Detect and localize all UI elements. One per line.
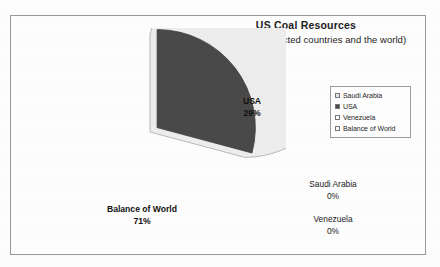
legend-swatch-icon [335, 126, 340, 131]
pie-label-balance-of-world: Balance of World 71% [78, 204, 206, 227]
zero-callout-venezuela: Venezuela 0% [287, 213, 379, 237]
pie-label-usa-name: USA [222, 96, 282, 108]
chart-page: US Coal Resources (compared to selected … [0, 0, 440, 267]
legend-item-saudi-arabia[interactable]: Saudi Arabia [335, 90, 406, 101]
pie-chart: USA 29% Balance of World 71% [26, 28, 286, 240]
pie-label-usa-percent: 29% [222, 108, 282, 120]
legend-swatch-icon [335, 104, 340, 109]
zero-callout-percent: 0% [287, 225, 379, 237]
pie-label-balance-percent: 71% [78, 216, 206, 228]
legend-label: USA [343, 103, 357, 110]
zero-callout-name: Saudi Arabia [287, 178, 379, 190]
legend-swatch-icon [335, 93, 340, 98]
legend-item-venezuela[interactable]: Venezuela [335, 112, 406, 123]
zero-callout-name: Venezuela [287, 213, 379, 225]
chart-legend[interactable]: Saudi Arabia USA Venezuela Balance of Wo… [330, 86, 411, 138]
pie-label-balance-name: Balance of World [78, 204, 206, 216]
legend-item-usa[interactable]: USA [335, 101, 406, 112]
legend-label: Venezuela [343, 114, 375, 121]
pie-label-usa: USA 29% [222, 96, 282, 119]
legend-item-balance-of-world[interactable]: Balance of World [335, 123, 406, 134]
zero-callout-saudi-arabia: Saudi Arabia 0% [287, 178, 379, 202]
legend-swatch-icon [335, 115, 340, 120]
legend-label: Saudi Arabia [343, 92, 382, 99]
zero-callout-percent: 0% [287, 190, 379, 202]
legend-label: Balance of World [343, 125, 395, 132]
